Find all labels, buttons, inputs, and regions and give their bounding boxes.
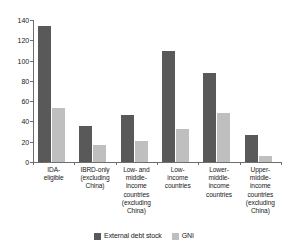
- bar-external-debt-stock: [162, 51, 175, 162]
- bar-gni: [52, 108, 65, 162]
- x-label-5: Upper-middle-incomecountries(excludingCh…: [240, 166, 281, 215]
- bar-gni: [217, 113, 230, 162]
- bar-group: [198, 20, 239, 162]
- x-axis-category-labels: IDA-eligibleIBRD-only(excludingChina)Low…: [33, 166, 282, 228]
- y-tick-label: 40: [21, 118, 29, 125]
- x-label-line: Low-: [157, 166, 198, 174]
- bar-external-debt-stock: [121, 115, 134, 162]
- bar-external-debt-stock: [203, 73, 216, 162]
- bar-external-debt-stock: [79, 126, 92, 163]
- x-label-line: middle-: [116, 174, 157, 182]
- y-tick-label: 140: [18, 17, 29, 24]
- bar-external-debt-stock: [245, 135, 258, 162]
- bar-gni: [93, 145, 106, 162]
- x-label-3: Low-incomecountries: [157, 166, 198, 191]
- chart-legend: External debt stockGNI: [0, 232, 288, 240]
- x-tick-mark: [33, 162, 34, 165]
- bar-gni: [176, 129, 189, 162]
- x-label-line: countries: [116, 191, 157, 199]
- legend-item[interactable]: GNI: [172, 232, 194, 240]
- x-label-line: income: [240, 182, 281, 190]
- legend-item[interactable]: External debt stock: [94, 232, 162, 240]
- bar-gni: [259, 156, 272, 162]
- x-label-line: IBRD-only: [74, 166, 115, 174]
- x-tick-mark: [157, 162, 158, 165]
- x-tick-mark: [281, 162, 282, 165]
- bar-group: [240, 20, 281, 162]
- legend-label: GNI: [182, 232, 194, 240]
- x-label-line: middle-: [240, 174, 281, 182]
- x-label-line: middle-: [198, 174, 239, 182]
- legend-swatch-icon: [172, 233, 179, 240]
- x-label-line: eligible: [33, 174, 74, 182]
- x-label-line: (excluding: [74, 174, 115, 182]
- y-tick-label: 80: [21, 77, 29, 84]
- x-label-line: Low- and: [116, 166, 157, 174]
- x-label-0: IDA-eligible: [33, 166, 74, 182]
- x-label-line: income: [157, 174, 198, 182]
- x-label-1: IBRD-only(excludingChina): [74, 166, 115, 191]
- x-label-line: income: [198, 182, 239, 190]
- bar-group: [74, 20, 115, 162]
- x-label-line: China): [74, 182, 115, 190]
- x-label-line: Upper-: [240, 166, 281, 174]
- x-label-line: (excluding: [116, 199, 157, 207]
- bar-chart-figure: 020406080100120140 IDA-eligibleIBRD-only…: [0, 0, 288, 250]
- x-label-line: countries: [157, 182, 198, 190]
- y-tick-label: 60: [21, 98, 29, 105]
- y-tick-label: 100: [18, 57, 29, 64]
- legend-label: External debt stock: [104, 232, 162, 240]
- x-label-line: China): [116, 207, 157, 215]
- x-label-line: (excluding: [240, 199, 281, 207]
- x-label-4: Lower-middle-incomecountries: [198, 166, 239, 199]
- x-tick-mark: [240, 162, 241, 165]
- x-label-line: IDA-: [33, 166, 74, 174]
- x-label-line: income: [116, 182, 157, 190]
- x-tick-mark: [116, 162, 117, 165]
- plot-area: 020406080100120140: [33, 20, 281, 162]
- x-label-line: countries: [198, 191, 239, 199]
- x-label-line: Lower-: [198, 166, 239, 174]
- x-tick-mark: [198, 162, 199, 165]
- x-tick-mark: [74, 162, 75, 165]
- y-tick-label: 0: [25, 159, 29, 166]
- bar-group: [33, 20, 74, 162]
- y-tick-label: 120: [18, 37, 29, 44]
- y-tick-label: 20: [21, 138, 29, 145]
- x-label-line: countries: [240, 191, 281, 199]
- bar-gni: [135, 141, 148, 162]
- x-label-line: China): [240, 207, 281, 215]
- bar-group: [157, 20, 198, 162]
- bar-group: [116, 20, 157, 162]
- x-label-2: Low- andmiddle-incomecountries(excluding…: [116, 166, 157, 215]
- legend-swatch-icon: [94, 233, 101, 240]
- bar-external-debt-stock: [38, 26, 51, 162]
